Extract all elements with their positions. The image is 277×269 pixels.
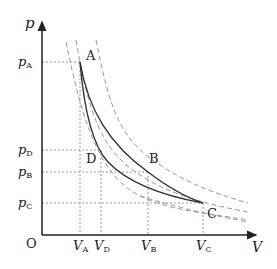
tick-pC: pC — [18, 195, 32, 211]
point-A-label: A — [85, 48, 96, 63]
tick-VD: VD — [94, 238, 110, 254]
tick-pB: pB — [18, 164, 32, 180]
tick-VC: VC — [196, 238, 212, 254]
guide-curve-1 — [66, 42, 248, 220]
tick-pD: pD — [18, 142, 33, 158]
origin-label: O — [26, 236, 37, 251]
tick-VA: VA — [73, 238, 88, 254]
point-D-label: D — [86, 151, 96, 166]
tick-pA: pA — [18, 54, 32, 70]
pv-diagram: p V O pA pD pB pC VA VD VB VC A B C D — [0, 0, 277, 269]
point-C-label: C — [207, 206, 217, 221]
curve-A-B-C — [80, 62, 203, 203]
y-tick-labels: pA pD pB pC — [18, 54, 33, 211]
x-tick-labels: VA VD VB VC — [73, 238, 212, 254]
process-curves — [80, 62, 203, 203]
tick-VB: VB — [141, 238, 156, 254]
dashed-guide-curves — [66, 40, 248, 222]
x-axis-label: V — [252, 239, 264, 255]
point-B-label: B — [149, 151, 159, 166]
guide-curve-3 — [96, 40, 248, 203]
y-axis-label: p — [25, 14, 35, 32]
curve-A-D-C — [80, 62, 203, 203]
